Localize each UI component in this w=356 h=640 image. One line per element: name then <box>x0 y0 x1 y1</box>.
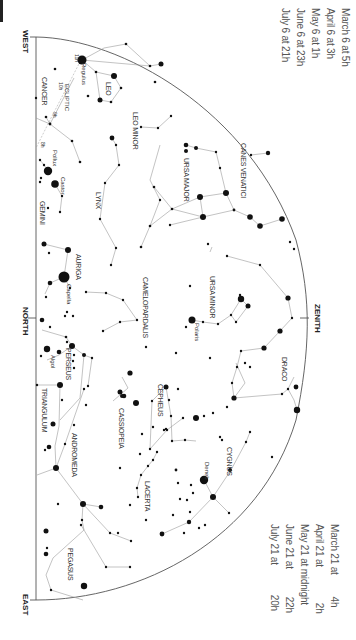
time-hour: 5h <box>340 56 351 67</box>
constellation-label-triangulum: TRIANGULUM <box>41 388 48 432</box>
time-text: June 6 at <box>295 8 306 47</box>
time-top-3: June 6 at 23h <box>295 8 306 66</box>
ecliptic-label: ECLIPTIC <box>64 84 70 111</box>
time-hour: 22h <box>284 597 295 613</box>
time-hour: 2h <box>314 603 325 614</box>
time-text: May 6 at <box>310 8 321 45</box>
star-label-polaris: Polaris <box>194 323 200 341</box>
time-text: April 6 at <box>325 8 336 45</box>
ecliptic-tick-11h: 11h <box>74 54 80 62</box>
constellation-label-cassiopeia: CASSIOPEIA <box>118 408 125 448</box>
constellation-label-gemini: GEMINI <box>39 201 46 225</box>
time-bottom-4: July 21 at20h <box>269 524 280 611</box>
time-text: April 21 at <box>314 524 325 567</box>
direction-west-label: WEST <box>21 30 30 53</box>
constellation-lines <box>36 44 297 600</box>
constellation-label-cygnus: CYGNUS <box>226 447 233 476</box>
time-top-4: July 6 at 21h <box>280 8 291 62</box>
constellation-label-canes-venatici: CANES VENATICI <box>240 143 247 198</box>
star-label-regulus: Regulus <box>81 63 87 85</box>
constellation-label-lacerta: LACERTA <box>144 481 151 511</box>
constellation-label-leo-minor: LEO MINOR <box>132 112 139 149</box>
constellation-label-perseus: PERSEUS <box>65 348 72 380</box>
time-hour: 4h <box>329 597 340 608</box>
time-hour: 1h <box>310 47 321 58</box>
constellation-label-draco: DRACO <box>281 357 288 381</box>
time-top-1: April 6 at 3h <box>325 8 336 59</box>
time-top-2: May 6 at 1h <box>310 8 321 58</box>
time-text: July 6 at <box>280 8 291 43</box>
stars <box>35 43 300 592</box>
star-label-algol: Algol <box>50 355 56 368</box>
star-label-pollux: Pollux <box>52 150 58 166</box>
time-hour: 20h <box>269 595 280 611</box>
ecliptic-tick-10h: 10h <box>58 82 64 90</box>
time-text: March 6 at <box>340 8 351 53</box>
ecliptic-tick-9h: 9h <box>52 112 58 118</box>
ecliptic-tick-8h: 8h <box>40 142 46 148</box>
time-bottom-0: March 21 at4h <box>329 524 340 614</box>
constellation-label-ursa-minor: URSA MINOR <box>209 276 216 318</box>
time-text: July 21 at <box>269 524 280 565</box>
constellation-label-ursa-major: URSA MAJOR <box>183 158 190 202</box>
constellation-label-camelopardalis: CAMELOPARDALIS <box>142 277 149 338</box>
time-bottom-2: May 21 at midnight <box>299 524 310 605</box>
constellation-label-cancer: CANCER <box>41 77 48 105</box>
faint-stars <box>35 43 295 592</box>
constellation-label-leo: LEO <box>105 82 112 95</box>
star-label-capella: Capella <box>66 284 72 304</box>
time-bottom-3: June 21 at22h <box>284 524 295 613</box>
constellation-label-lynx: LYNX <box>95 192 102 209</box>
horizon-frame <box>28 37 309 600</box>
time-hour: 21h <box>280 46 291 62</box>
time-top-0: March 6 at 5h <box>340 8 351 67</box>
time-text: May 21 at midnight <box>299 524 310 605</box>
direction-north-label: NORTH <box>21 307 30 335</box>
direction-east-label: EAST <box>21 594 30 615</box>
constellation-label-pegasus: PEGASUS <box>67 548 74 580</box>
constellation-label-andromeda: ANDROMEDA <box>71 433 78 477</box>
time-text: June 21 at <box>284 524 295 569</box>
time-text: March 21 at <box>329 524 340 575</box>
star-label-castor: Castor <box>60 177 66 195</box>
time-bottom-1: April 21 at2h <box>314 524 325 614</box>
time-hour: 3h <box>325 48 336 59</box>
time-hour: 23h <box>295 50 306 66</box>
star-label-deneb: Deneb <box>204 462 210 480</box>
constellation-label-auriga: AURIGA <box>75 254 82 280</box>
constellation-label-cepheus: CEPHEUS <box>157 384 164 416</box>
direction-zenith-label: ZENITH <box>313 304 322 333</box>
